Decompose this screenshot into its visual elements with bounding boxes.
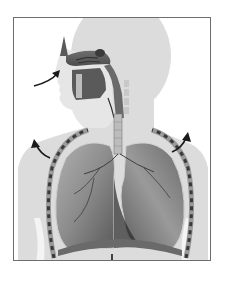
nose-icon	[60, 36, 68, 56]
respiratory-diagram	[14, 18, 211, 261]
inhale-arrow-icon	[34, 70, 60, 86]
trachea	[114, 114, 122, 154]
diagram-frame	[13, 17, 211, 261]
